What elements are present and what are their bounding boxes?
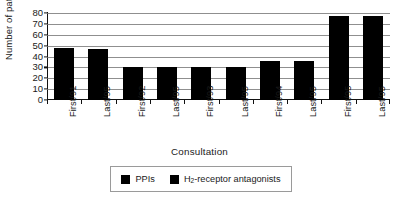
y-axis-tick-label: 30 — [32, 63, 43, 73]
y-axis-tick-label: 50 — [32, 41, 43, 51]
x-axis-tick-mark — [389, 100, 390, 104]
gridline — [47, 13, 390, 14]
y-axis-tick-label: 40 — [32, 52, 43, 62]
legend-entry: PPIs — [121, 174, 154, 184]
y-axis-tick-label: 10 — [32, 84, 43, 94]
y-axis-tick-mark — [44, 12, 48, 13]
y-axis-title: Number of patients — [2, 0, 16, 64]
x-axis-tick-mark — [253, 100, 254, 104]
y-axis-tick-label: 60 — [32, 30, 43, 40]
x-axis-tick-label: First/92 — [137, 71, 147, 117]
y-axis-tick-label: 80 — [32, 8, 43, 18]
x-axis-tick-mark — [321, 100, 322, 104]
legend-label: PPIs — [135, 174, 154, 184]
x-axis-tick-label: First/93 — [205, 71, 215, 117]
y-axis-tick-mark — [44, 67, 48, 68]
y-axis-tick-label: 0 — [38, 95, 43, 105]
y-axis-tick-mark — [44, 89, 48, 90]
legend-entry: H2-receptor antagonists — [170, 174, 281, 185]
y-axis-tick-mark — [44, 56, 48, 57]
chart-legend: PPIsH2-receptor antagonists — [110, 166, 292, 192]
x-axis-tick-mark — [184, 100, 185, 104]
y-axis-tick-mark — [44, 78, 48, 79]
legend-swatch-icon — [121, 175, 130, 184]
x-axis-tick-mark — [47, 100, 48, 104]
x-axis-tick-label: Last/95 — [308, 71, 318, 117]
x-axis-title: Consultation — [0, 146, 399, 157]
x-axis-tick-mark — [150, 100, 151, 104]
x-axis-tick-mark — [116, 100, 117, 104]
x-axis-tick-mark — [356, 100, 357, 104]
y-axis-tick-mark — [44, 45, 48, 46]
x-axis-tick-label: Last/95 — [240, 71, 250, 117]
y-axis-tick-label: 70 — [32, 19, 43, 29]
y-axis-tick-mark — [44, 23, 48, 24]
x-axis-tick-label: First/94 — [274, 71, 284, 117]
x-axis-tick-label: First/91 — [68, 71, 78, 117]
x-axis-tick-label: Last/95 — [171, 71, 181, 117]
x-axis-tick-label: Last/95 — [377, 71, 387, 117]
x-axis-tick-mark — [81, 100, 82, 104]
legend-swatch-icon — [170, 175, 179, 184]
x-axis-tick-label: Last/95 — [102, 71, 112, 117]
y-axis-tick-mark — [44, 34, 48, 35]
bar-chart-figure: Number of patients 01020304050607080 Fir… — [0, 0, 399, 206]
plot-area: 01020304050607080 First/91Last/95First/9… — [47, 13, 390, 100]
x-axis-tick-mark — [287, 100, 288, 104]
y-axis-tick-label: 20 — [32, 74, 43, 84]
x-axis-tick-label: First/95 — [343, 71, 353, 117]
x-axis-tick-mark — [219, 100, 220, 104]
legend-label: H2-receptor antagonists — [184, 174, 281, 185]
